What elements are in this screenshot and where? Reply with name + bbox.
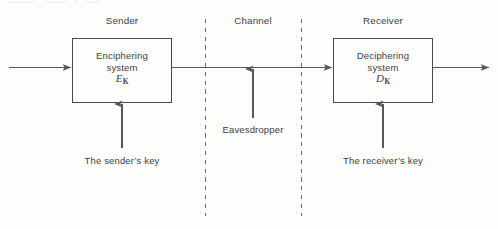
enciphering-box-symbol: EK xyxy=(96,73,148,87)
deciphering-box-text: Deciphering system DK xyxy=(357,50,409,87)
deciphering-symbol-letter: D xyxy=(376,72,384,84)
deciphering-symbol-subscript: K xyxy=(384,78,390,86)
eavesdropper-label: Eavesdropper xyxy=(223,124,284,135)
enciphering-symbol-letter: E xyxy=(116,72,123,84)
enciphering-box-text: Enciphering system EK xyxy=(96,50,148,87)
enciphering-box-line1: Enciphering xyxy=(96,50,148,62)
deciphering-box-symbol: DK xyxy=(357,73,409,87)
zone-label-receiver: Receiver xyxy=(363,15,403,26)
diagram-canvas: Sender Channel Receiver Enciphering syst… xyxy=(0,0,498,229)
sender-key-label: The sender’s key xyxy=(85,155,160,166)
receiver-key-label: The receiver’s key xyxy=(343,155,423,166)
zone-label-channel: Channel xyxy=(234,15,272,26)
deciphering-box-line1: Deciphering xyxy=(357,50,409,62)
zone-label-sender: Sender xyxy=(106,15,139,26)
diagram-lines xyxy=(0,0,498,229)
enciphering-symbol-subscript: K xyxy=(123,78,129,86)
